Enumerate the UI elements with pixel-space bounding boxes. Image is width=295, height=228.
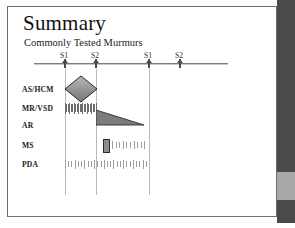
- opening-snap-ms: [103, 139, 110, 153]
- murmur-shape-mr-vsd: [65, 103, 97, 114]
- murmur-timeline-chart: S1S2S1S2AS/HCMMR/VSDARMSPDA: [8, 7, 278, 218]
- timeline-axis-shadow: [34, 64, 228, 65]
- slide-viewer: Summary Commonly Tested Murmurs S1S2S1S2…: [0, 0, 295, 228]
- murmur-shape-ms: [112, 141, 148, 149]
- axis-tick-2: [148, 59, 149, 68]
- vertical-scrollbar[interactable]: [277, 0, 295, 228]
- row-label-as-hcm: AS/HCM: [22, 85, 54, 94]
- murmur-shape-ar: [96, 110, 144, 127]
- row-label-pda: PDA: [22, 160, 38, 169]
- row-label-ar: AR: [22, 121, 33, 130]
- gridline-2: [149, 69, 150, 195]
- row-label-ms: MS: [22, 141, 34, 150]
- row-label-mr-vsd: MR/VSD: [22, 104, 53, 113]
- slide-page: Summary Commonly Tested Murmurs S1S2S1S2…: [7, 6, 277, 217]
- scrollbar-thumb[interactable]: [277, 172, 295, 200]
- axis-tick-3: [179, 59, 180, 68]
- axis-tick-1: [95, 59, 96, 68]
- axis-tick-0: [64, 59, 65, 68]
- murmur-shape-as-hcm: [65, 75, 97, 103]
- viewer-bottom-edge: [0, 223, 295, 228]
- murmur-shape-pda: [65, 160, 149, 169]
